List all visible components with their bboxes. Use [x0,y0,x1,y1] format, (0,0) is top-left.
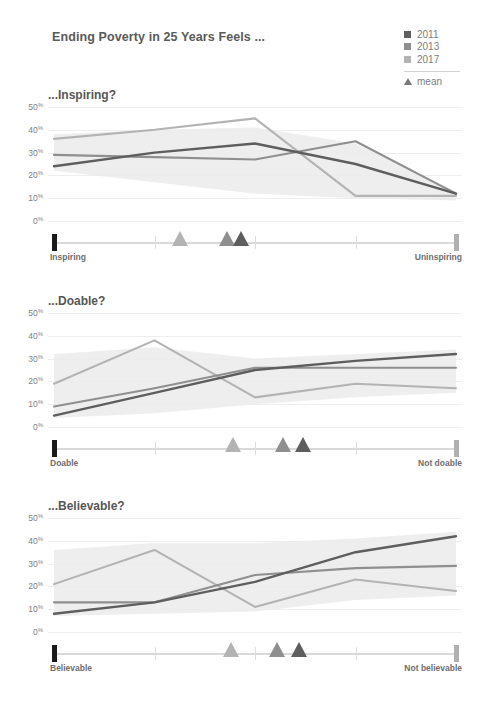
plot-area: 0%10%20%30%40%50% [48,313,462,427]
y-axis-tick-label: 30% [28,353,43,364]
axis-label-left: Believable [50,663,92,673]
mean-marker-2011 [233,231,249,246]
series-canvas [48,518,462,632]
mean-marker-2011 [291,642,307,657]
mean-marker-2011 [295,437,311,452]
plot-area: 0%10%20%30%40%50% [48,518,462,632]
axis-endpoint-left [52,440,57,457]
y-axis-tick-label: 30% [28,147,43,158]
legend-label-mean: mean [417,76,442,87]
y-axis-tick-label: 40% [28,330,43,341]
series-canvas [48,107,462,221]
y-axis-tick-label: 10% [28,193,43,204]
mean-marker-2017 [223,642,239,657]
panel-title: ...Believable? [48,499,125,513]
y-axis-tick-label: 50% [28,513,43,524]
axis-endpoint-left [52,234,57,251]
plot-area: 0%10%20%30%40%50% [48,107,462,221]
chart-page: Ending Poverty in 25 Years Feels ... 201… [0,0,489,706]
mean-marker-2013 [275,437,291,452]
axis-label-left: Doable [50,458,78,468]
legend-label-2017: 2017 [417,54,439,65]
x-axis-tick [356,442,357,455]
range-band [54,128,456,201]
legend-item-2011[interactable]: 2011 [404,28,484,41]
legend: 2011 2013 2017 mean [404,28,484,88]
mean-marker-2017 [225,437,241,452]
axis-strip: BelievableNot believable [48,639,462,669]
legend-label-2013: 2013 [417,41,439,52]
legend-item-2013[interactable]: 2013 [404,41,484,54]
x-axis-tick [255,442,256,455]
axis-endpoint-right [454,440,459,457]
y-axis-tick-label: 40% [28,124,43,135]
legend-label-2011: 2011 [417,29,439,40]
legend-divider [404,71,460,72]
axis-strip: DoableNot doable [48,434,462,464]
y-axis-tick-label: 50% [28,308,43,319]
mean-marker-2013 [269,642,285,657]
x-axis-tick [155,442,156,455]
y-axis-tick-label: 0% [33,216,43,227]
legend-item-2017[interactable]: 2017 [404,53,484,66]
legend-swatch-2011 [404,31,411,38]
axis-endpoint-right [454,234,459,251]
series-canvas [48,313,462,427]
y-axis-tick-label: 20% [28,376,43,387]
y-axis-tick-label: 0% [33,627,43,638]
x-axis-tick [356,236,357,249]
axis-label-right: Not doable [418,458,462,468]
triangle-up-icon [404,78,412,85]
y-axis-tick-label: 40% [28,535,43,546]
legend-item-mean: mean [404,76,484,89]
axis-endpoint-left [52,645,57,662]
y-axis-tick-label: 0% [33,422,43,433]
y-axis-tick-label: 50% [28,102,43,113]
x-axis-tick [255,236,256,249]
legend-swatch-2013 [404,43,411,50]
gridline [48,221,462,222]
gridline [48,632,462,633]
page-title: Ending Poverty in 25 Years Feels ... [52,30,265,44]
y-axis-tick-label: 30% [28,558,43,569]
y-axis-tick-label: 10% [28,399,43,410]
axis-label-right: Not believable [404,663,462,673]
axis-endpoint-right [454,645,459,662]
x-axis-tick [155,647,156,660]
mean-marker-2017 [172,231,188,246]
y-axis-tick-label: 20% [28,581,43,592]
y-axis-tick-label: 20% [28,170,43,181]
panel-title: ...Inspiring? [48,88,116,102]
axis-label-right: Uninspiring [415,252,462,262]
axis-strip: InspiringUninspiring [48,228,462,258]
x-axis-tick [155,236,156,249]
axis-label-left: Inspiring [50,252,86,262]
y-axis-tick-label: 10% [28,604,43,615]
gridline [48,427,462,428]
legend-swatch-2017 [404,56,411,63]
x-axis-tick [356,647,357,660]
x-axis-tick [255,647,256,660]
panel-title: ...Doable? [48,294,105,308]
